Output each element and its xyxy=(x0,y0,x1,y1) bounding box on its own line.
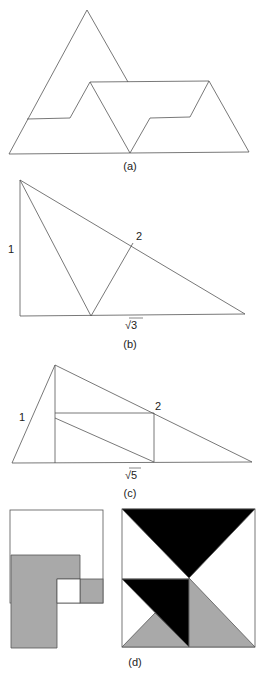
left-step-cut xyxy=(27,82,90,119)
figure-d-right xyxy=(122,509,255,647)
caption-d: (d) xyxy=(128,656,141,668)
figure-a xyxy=(9,10,249,154)
label-side-1: 1 xyxy=(19,411,25,423)
base-line xyxy=(9,152,249,154)
figure-b xyxy=(20,180,245,316)
trapezoid-top-edge xyxy=(90,81,209,82)
label-base-sqrt3: √3 xyxy=(125,319,137,331)
caption-a: (a) xyxy=(123,160,136,172)
caption-c: (c) xyxy=(124,487,137,499)
label-base-sqrt5: √5 xyxy=(125,469,137,481)
label-hyp-2: 2 xyxy=(136,230,142,242)
figure-d-left xyxy=(10,510,103,648)
right-triangle xyxy=(20,180,245,316)
dissection-figures: (a) 1 2 √3 (b) 1 2 √5 (c) (d) xyxy=(0,0,268,675)
caption-b: (b) xyxy=(123,338,136,350)
cut-line-1 xyxy=(20,180,91,316)
zigzag-cut xyxy=(90,81,249,153)
rectangle-cut xyxy=(55,413,154,462)
gray-small-square xyxy=(80,579,103,603)
label-side-1: 1 xyxy=(8,243,14,255)
diagonal-cut xyxy=(55,418,154,462)
cut-line-2 xyxy=(91,243,133,316)
triangle xyxy=(12,365,252,463)
white-small-square xyxy=(57,579,80,603)
figure-c xyxy=(12,365,252,463)
label-hyp-2: 2 xyxy=(155,400,161,412)
